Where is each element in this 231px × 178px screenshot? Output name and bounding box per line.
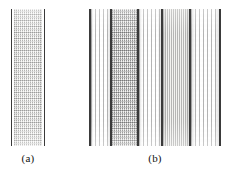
- panel-a: [11, 9, 45, 146]
- band-shading: [163, 9, 189, 146]
- strip-stack-b: [89, 9, 221, 146]
- band-shading: [112, 9, 137, 146]
- band-shading: [14, 9, 42, 146]
- band-shading: [139, 9, 161, 146]
- figure-root: (a)(b): [0, 0, 231, 178]
- band-a-mesh-body: [14, 9, 42, 146]
- band-shading: [191, 9, 219, 146]
- band-b-dash-band-2: [139, 9, 161, 146]
- band-b-dash-band-3: [191, 9, 219, 146]
- band-vertical-fade: [91, 9, 110, 146]
- panel-caption-b: (b): [89, 152, 221, 164]
- band-vertical-fade: [191, 9, 219, 146]
- band-a-gap-right: [42, 9, 44, 146]
- strip-stack-a: [11, 9, 45, 146]
- band-b-edge-6: [219, 9, 221, 146]
- band-vertical-fade: [112, 9, 137, 146]
- band-vertical-fade: [14, 9, 42, 146]
- panel-caption-a: (a): [11, 152, 45, 164]
- band-b-dash-band-1: [91, 9, 110, 146]
- band-vertical-fade: [163, 9, 189, 146]
- band-b-mesh-band-1: [112, 9, 137, 146]
- band-shading: [91, 9, 110, 146]
- band-a-right-edge: [44, 9, 45, 146]
- band-b-line-band: [163, 9, 189, 146]
- panel-b: [89, 9, 221, 146]
- band-vertical-fade: [139, 9, 161, 146]
